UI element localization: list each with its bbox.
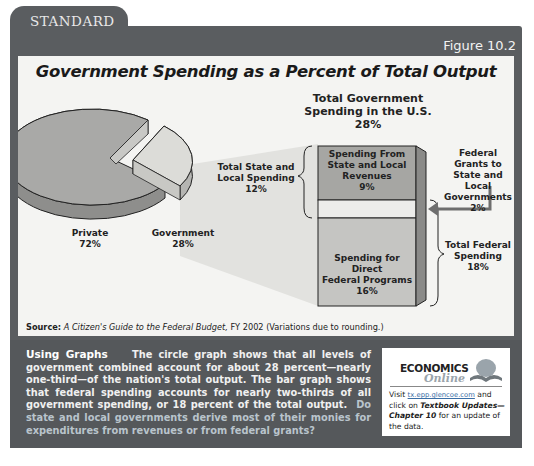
chart-graphics xyxy=(18,56,514,336)
federal-annotation: Total FederalSpending18% xyxy=(442,240,514,273)
caption-panel: Using Graphs The circle graph shows that… xyxy=(10,340,522,448)
caption-text: Using Graphs The circle graph shows that… xyxy=(26,348,371,437)
chart-area: Government Spending as a Percent of Tota… xyxy=(18,56,514,336)
grants-annotation: Federal Grants toState and LocalGovernme… xyxy=(442,148,514,214)
source-note: Source: A Citizen's Guide to the Federal… xyxy=(26,322,384,332)
segment-federal-label: Spending for DirectFederal Programs16% xyxy=(318,253,416,297)
econ-instructions: Visit tx.epp.glencoe.com and click on Te… xyxy=(389,390,507,432)
government-label: Government28% xyxy=(148,228,218,250)
divider xyxy=(390,386,502,387)
private-label: Private72% xyxy=(60,228,120,250)
segment-state-local-label: Spending FromState and LocalRevenues9% xyxy=(318,149,416,193)
website-link[interactable]: tx.epp.glencoe.com xyxy=(408,391,475,399)
state-local-annotation: Total State andLocal Spending12% xyxy=(216,162,296,195)
chart-panel: Government Spending as a Percent of Tota… xyxy=(10,56,522,340)
economics-online-box: ECONOMICS Online Visit tx.epp.glencoe.co… xyxy=(382,348,510,436)
bar-title: Total GovernmentSpending in the U.S.28% xyxy=(298,92,438,131)
globe-book-icon xyxy=(468,356,504,384)
arrowhead-icon xyxy=(428,202,438,216)
figure-label: Figure 10.2 xyxy=(443,38,516,53)
caption-heading: Using Graphs xyxy=(26,348,108,360)
online-logo: Online xyxy=(424,372,465,385)
